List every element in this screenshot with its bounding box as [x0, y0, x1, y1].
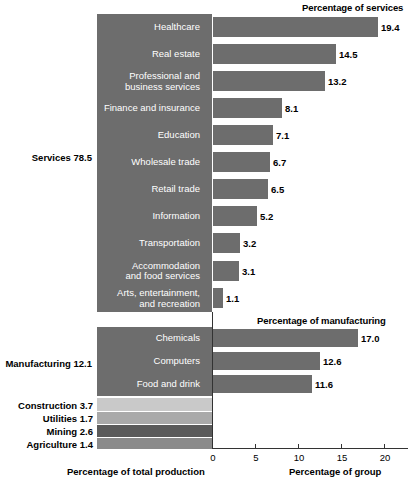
manufacturing-category-block: Chemicals Computers Food and drink: [97, 327, 212, 396]
sector-bar-utilities: [97, 412, 212, 424]
category-label-computers: Computers: [97, 350, 206, 373]
sector-bar-agriculture: [97, 438, 212, 449]
category-label-transportation: Transportation: [97, 230, 206, 257]
services-group-label: Services 78.5: [22, 152, 92, 163]
bar-real-estate: [213, 44, 336, 64]
bar-value-professional-services: 13.2: [328, 76, 347, 87]
bar-value-transportation: 3.2: [243, 238, 256, 249]
services-category-block: Healthcare Real estate Professional and …: [97, 14, 212, 312]
production-breakdown-chart: Percentage of services Services 78.5 Hea…: [0, 0, 408, 482]
category-label-healthcare: Healthcare: [97, 14, 206, 41]
bar-healthcare: [213, 17, 378, 37]
bar-arts-entertainment: [213, 288, 223, 308]
bar-value-arts-entertainment: 1.1: [226, 293, 239, 304]
category-label-professional-services: Professional and business services: [97, 68, 206, 95]
left-axis-caption: Percentage of total production: [67, 466, 205, 477]
x-axis-line: [212, 448, 408, 449]
x-tick-label-10: 10: [294, 452, 305, 463]
bar-value-real-estate: 14.5: [339, 49, 358, 60]
category-label-information: Information: [97, 203, 206, 230]
bar-value-healthcare: 19.4: [381, 22, 400, 33]
x-tick-15: [341, 444, 342, 449]
bar-value-food-and-drink: 11.6: [315, 379, 333, 390]
bar-computers: [213, 352, 320, 370]
bar-professional-services: [213, 71, 325, 91]
bar-food-and-drink: [213, 375, 312, 393]
x-tick-20: [384, 444, 385, 449]
sector-bar-construction: [97, 398, 212, 411]
bar-accommodation-food: [213, 261, 239, 281]
sector-label-construction: Construction 3.7: [18, 400, 93, 411]
services-header-label: Percentage of services: [302, 2, 403, 13]
x-tick-label-20: 20: [380, 452, 391, 463]
x-tick-5: [255, 444, 256, 449]
bar-value-retail-trade: 6.5: [271, 184, 284, 195]
category-label-food-and-drink: Food and drink: [97, 373, 206, 396]
right-axis-caption: Percentage of group: [289, 466, 381, 477]
category-label-real-estate: Real estate: [97, 41, 206, 68]
bar-finance-insurance: [213, 98, 282, 118]
bar-value-information: 5.2: [260, 211, 273, 222]
bar-value-accommodation-food: 3.1: [242, 266, 255, 277]
bar-value-wholesale-trade: 6.7: [273, 157, 286, 168]
x-tick-label-15: 15: [337, 452, 348, 463]
bar-chemicals: [213, 329, 358, 347]
sector-label-mining: Mining 2.6: [47, 426, 93, 437]
sector-label-agriculture: Agriculture 1.4: [26, 439, 93, 450]
x-tick-10: [298, 444, 299, 449]
bar-retail-trade: [213, 179, 268, 199]
bar-information: [213, 206, 257, 226]
sector-bar-mining: [97, 425, 212, 437]
category-label-education: Education: [97, 122, 206, 149]
category-label-chemicals: Chemicals: [97, 327, 206, 350]
sector-label-utilities: Utilities 1.7: [43, 413, 93, 424]
x-tick-label-5: 5: [253, 452, 258, 463]
category-label-accommodation-food: Accommodation and food services: [97, 257, 206, 285]
manufacturing-header-label: Percentage of manufacturing: [257, 315, 386, 326]
category-label-arts-entertainment: Arts, entertainment, and recreation: [97, 285, 206, 312]
y-axis-line: [212, 312, 213, 449]
bar-value-computers: 12.6: [323, 356, 342, 367]
bar-value-chemicals: 17.0: [361, 333, 380, 344]
category-label-wholesale-trade: Wholesale trade: [97, 149, 206, 176]
bar-transportation: [213, 233, 240, 253]
bar-wholesale-trade: [213, 152, 270, 172]
category-label-retail-trade: Retail trade: [97, 176, 206, 203]
bar-value-finance-insurance: 8.1: [285, 103, 298, 114]
bar-value-education: 7.1: [276, 130, 289, 141]
x-tick-label-0: 0: [210, 452, 215, 463]
manufacturing-group-label: Manufacturing 12.1: [5, 358, 92, 369]
bar-education: [213, 125, 273, 145]
category-label-finance-insurance: Finance and insurance: [97, 95, 206, 122]
